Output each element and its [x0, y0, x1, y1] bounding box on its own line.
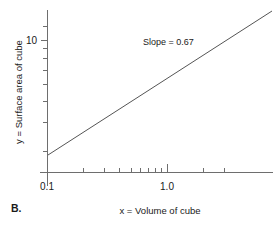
log-log-chart: 10 0.1 1.0 x = Volume of cube y = Surfac…	[0, 0, 280, 226]
y-tick-label-10: 10	[26, 35, 38, 46]
x-tick-label-1-0: 1.0	[160, 181, 174, 192]
data-line-surface-area	[48, 11, 272, 155]
x-tick-label-0-1: 0.1	[40, 181, 54, 192]
x-axis-title: x = Volume of cube	[119, 205, 200, 216]
slope-annotation: Slope = 0.67	[143, 37, 194, 47]
y-axis-ticks	[41, 27, 48, 152]
y-axis-title: y = Surface area of cube	[13, 40, 24, 144]
x-axis-ticks	[48, 164, 225, 173]
figure-panel: 10 0.1 1.0 x = Volume of cube y = Surfac…	[0, 0, 280, 226]
panel-letter: B.	[11, 202, 22, 214]
